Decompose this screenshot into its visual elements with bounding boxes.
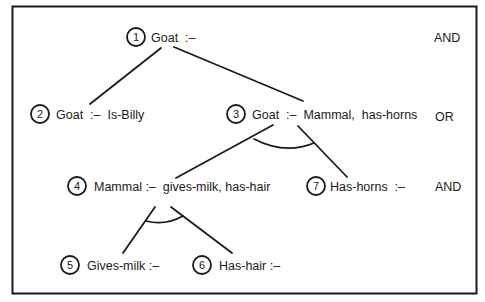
node-label: Mammal :– gives-milk, has-hair — [94, 180, 270, 194]
node-label: Has-hair :– — [219, 259, 280, 273]
node-label: Goat :– Mammal, has-horns — [252, 108, 417, 122]
node-label: Goat :– Is-Billy — [56, 108, 145, 122]
edge-3-7 — [298, 126, 347, 177]
node-number: 7 — [313, 180, 319, 192]
level-label-or: OR — [435, 110, 454, 124]
node-number: 5 — [67, 259, 73, 271]
edge-1-2 — [90, 48, 161, 104]
node-2: 2 Goat :– Is-Billy — [31, 105, 145, 123]
node-4: 4 Mammal :– gives-milk, has-hair — [68, 177, 270, 195]
node-number: 6 — [199, 259, 205, 271]
node-5: 5 Gives-milk :– — [61, 256, 159, 274]
edge-1-3 — [174, 47, 303, 101]
node-number: 1 — [133, 31, 139, 43]
edges — [90, 47, 347, 253]
and-arc-node-4 — [146, 216, 183, 223]
node-label: Gives-milk :– — [87, 259, 159, 273]
node-3: 3 Goat :– Mammal, has-horns — [227, 105, 417, 123]
node-label: Has-horns :– — [330, 180, 405, 194]
node-6: 6 Has-hair :– — [193, 256, 280, 274]
node-number: 4 — [74, 180, 80, 192]
node-label: Goat :– — [151, 31, 196, 45]
node-number: 2 — [37, 108, 43, 120]
and-or-tree-diagram: 1 Goat :– 2 Goat :– Is-Billy 3 Goat :– M… — [0, 0, 485, 302]
level-label-and-top: AND — [434, 31, 460, 45]
diagram-frame — [13, 7, 477, 294]
node-1: 1 Goat :– — [127, 28, 196, 46]
and-arc-node-3 — [254, 139, 314, 148]
level-label-and-bottom: AND — [435, 180, 461, 194]
node-7: 7 Has-horns :– — [307, 177, 405, 195]
edge-4-6 — [171, 207, 232, 253]
edge-3-4 — [176, 125, 273, 178]
node-number: 3 — [233, 108, 239, 120]
edge-4-5 — [123, 207, 155, 253]
